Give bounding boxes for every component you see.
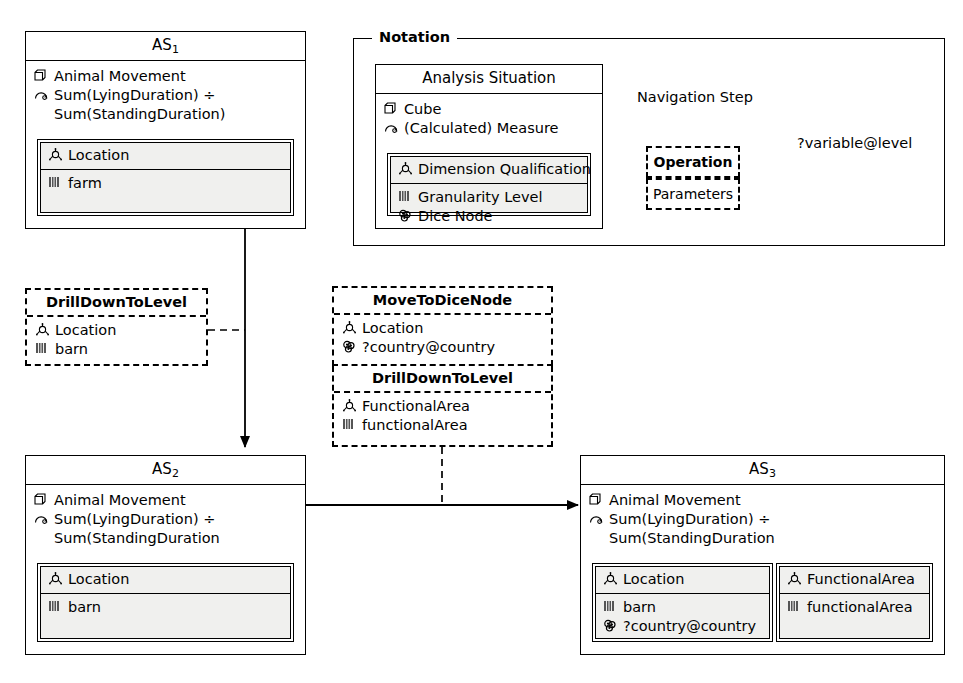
as3-cube-label: Animal Movement	[609, 491, 936, 510]
cube-icon	[34, 491, 54, 506]
as3-cube-row: Animal Movement	[589, 491, 936, 510]
operation-drilldowntolevel-left[interactable]: DrillDownToLevel Location barn	[25, 288, 208, 366]
as2-measure-label: Sum(LyingDuration) ÷	[54, 510, 297, 529]
legend-cube-row: Cube	[384, 100, 594, 119]
as2-dimension-qualification[interactable]: Location barn	[40, 566, 291, 639]
measure-gauge-icon	[34, 86, 54, 101]
as3-dim2-items: functionalArea	[780, 594, 929, 622]
as3-dim1-item-dicenode-label: ?country@country	[623, 617, 762, 636]
as2-measure-row: Sum(LyingDuration) ÷	[34, 510, 297, 529]
as1-measure-row: Sum(LyingDuration) ÷	[34, 86, 297, 105]
as1-measure-continuation: Sum(StandingDuration)	[34, 105, 297, 124]
as1-measure-label: Sum(LyingDuration) ÷	[54, 86, 297, 105]
op-mid1-name: MoveToDiceNode	[334, 288, 551, 315]
legend-measure-label: (Calculated) Measure	[404, 119, 594, 138]
dimension-qualification-icon	[603, 570, 623, 586]
granularity-level-icon	[48, 598, 68, 612]
legend-dim-items: Granularity Level Dice Node	[391, 184, 587, 231]
as2-dim-item-label: barn	[68, 598, 283, 617]
as3-dim1-head-row: Location	[603, 570, 762, 589]
op-left-dimension-label: Location	[55, 321, 198, 340]
as1-cube-label: Animal Movement	[54, 67, 297, 86]
as3-dim2-item-level: functionalArea	[787, 598, 922, 617]
granularity-level-icon	[603, 598, 623, 612]
as3-dim1-head: Location	[596, 567, 769, 594]
as3-dimension-qualification-location[interactable]: Location barn ?country@country	[595, 566, 770, 639]
as2-dim-items: barn	[41, 594, 290, 622]
as1-body: Animal Movement Sum(LyingDuration) ÷ Sum…	[26, 61, 305, 131]
as1-dim-items: farm	[41, 170, 290, 198]
dimension-qualification-icon	[398, 160, 418, 176]
notation-operation-box: Operation	[646, 146, 740, 178]
measure-gauge-icon	[384, 119, 404, 134]
legend-dimension-qualification: Dimension Qualification Granularity Leve…	[390, 156, 588, 213]
cube-icon	[34, 67, 54, 82]
as1-dim-item: farm	[48, 174, 283, 193]
notation-operation-label: Operation	[648, 148, 738, 170]
analysis-situation-as3[interactable]: AS3 Animal Movement Sum(LyingDuration) ÷…	[580, 455, 945, 655]
legend-granularity-label: Granularity Level	[418, 188, 580, 207]
as1-dimension-qualification[interactable]: Location farm	[40, 142, 291, 213]
op-mid2-dimension-label: FunctionalArea	[362, 397, 543, 416]
as3-measure-row: Sum(LyingDuration) ÷	[589, 510, 936, 529]
as2-dim-head-label: Location	[68, 570, 283, 589]
op-mid1-param-dimension: Location	[342, 319, 543, 338]
as2-body: Animal Movement Sum(LyingDuration) ÷ Sum…	[26, 485, 305, 555]
dice-node-icon	[603, 617, 623, 632]
granularity-level-icon	[35, 340, 55, 354]
as2-cube-label: Animal Movement	[54, 491, 297, 510]
as3-dim2-head-label: FunctionalArea	[807, 570, 922, 589]
operation-movetodicenode[interactable]: MoveToDiceNode Location ?country@country	[332, 286, 553, 366]
legend-dicenode-label: Dice Node	[418, 207, 580, 226]
as2-title: AS2	[26, 456, 305, 485]
cube-icon	[384, 100, 404, 115]
legend-dim-head-label: Dimension Qualification	[418, 160, 591, 179]
as2-dim-head: Location	[41, 567, 290, 594]
as3-dimension-qualification-functionalarea[interactable]: FunctionalArea functionalArea	[779, 566, 930, 639]
dimension-qualification-icon	[342, 397, 362, 413]
granularity-level-icon	[398, 188, 418, 202]
dimension-qualification-icon	[48, 146, 68, 162]
analysis-situation-as2[interactable]: AS2 Animal Movement Sum(LyingDuration) ÷…	[25, 455, 306, 655]
op-mid2-name: DrillDownToLevel	[334, 366, 551, 393]
as1-title: AS1	[26, 32, 305, 61]
dimension-qualification-icon	[342, 319, 362, 335]
as2-cube-row: Animal Movement	[34, 491, 297, 510]
as3-dim1-head-label: Location	[623, 570, 762, 589]
as3-dim1-item-dicenode: ?country@country	[603, 617, 762, 636]
as1-dim-head-label: Location	[68, 146, 283, 165]
as3-dim1-item-level-label: barn	[623, 598, 762, 617]
legend-dim-head-row: Dimension Qualification	[398, 160, 580, 179]
as3-title: AS3	[581, 456, 944, 485]
op-left-param-level: barn	[35, 340, 198, 359]
legend-body: Cube (Calculated) Measure	[376, 94, 602, 145]
diagram-canvas: AS1 Animal Movement Sum(LyingDuration) ÷…	[0, 0, 963, 683]
analysis-situation-as1[interactable]: AS1 Animal Movement Sum(LyingDuration) ÷…	[25, 31, 306, 229]
notation-frame-label: Notation	[372, 29, 457, 45]
legend-title: Analysis Situation	[376, 65, 602, 94]
as1-dim-head-row: Location	[48, 146, 283, 165]
as3-body: Animal Movement Sum(LyingDuration) ÷ Sum…	[581, 485, 944, 555]
measure-gauge-icon	[34, 510, 54, 525]
operation-drilldowntolevel-middle[interactable]: DrillDownToLevel FunctionalArea function…	[332, 366, 553, 447]
dice-node-icon	[398, 207, 418, 222]
measure-gauge-icon	[589, 510, 609, 525]
notation-legend-analysis-situation: Analysis Situation Cube (Calculated) Mea…	[375, 64, 603, 229]
as1-dim-head: Location	[41, 143, 290, 170]
dimension-qualification-icon	[48, 570, 68, 586]
op-mid2-param-dimension: FunctionalArea	[342, 397, 543, 416]
dice-node-icon	[342, 338, 362, 353]
op-left-param-dimension: Location	[35, 321, 198, 340]
as3-measure-label: Sum(LyingDuration) ÷	[609, 510, 936, 529]
op-mid1-dicenode-label: ?country@country	[362, 338, 543, 357]
notation-navigation-step-label: Navigation Step	[637, 89, 753, 105]
dimension-qualification-icon	[787, 570, 807, 586]
op-mid2-level-label: functionalArea	[362, 416, 543, 435]
as2-measure-continuation: Sum(StandingDuration	[34, 529, 297, 548]
granularity-level-icon	[342, 416, 362, 430]
as1-dim-item-label: farm	[68, 174, 283, 193]
as3-dim1-items: barn ?country@country	[596, 594, 769, 641]
as3-dim2-head-row: FunctionalArea	[787, 570, 922, 589]
legend-measure-row: (Calculated) Measure	[384, 119, 594, 138]
granularity-level-icon	[48, 174, 68, 188]
